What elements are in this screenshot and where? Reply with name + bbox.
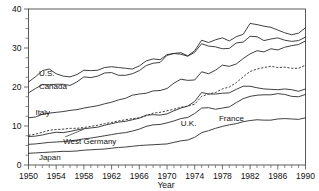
x-tick-label-1982: 1982	[241, 171, 260, 181]
series-line-france	[29, 65, 306, 135]
series-label-canada: Canada	[39, 82, 68, 91]
x-tick-label-1950: 1950	[19, 171, 38, 181]
series-line-italy	[29, 41, 306, 118]
x-tick-label-1962: 1962	[102, 171, 121, 181]
series-line-west-germany	[29, 86, 306, 136]
series-line-u-s	[29, 36, 306, 82]
y-tick-label-30: 30	[12, 43, 22, 53]
chart-canvas: 1950195419581962196619701974197819821986…	[0, 0, 319, 191]
series-label-u-k: U.K.	[181, 119, 197, 128]
series-label-u-s: U.S.	[39, 69, 55, 78]
y-tick-label-10: 10	[12, 121, 22, 131]
data-series-lines	[29, 23, 306, 153]
x-tick-label-1978: 1978	[213, 171, 232, 181]
series-label-italy: Italy	[35, 108, 50, 117]
x-tick-label-1974: 1974	[185, 171, 204, 181]
series-inline-labels: U.S.CanadaFranceItalyWest GermanyU.K.Jap…	[35, 69, 244, 161]
series-label-west-germany: West Germany	[63, 137, 116, 146]
y-tick-label-20: 20	[12, 82, 22, 92]
x-axis-title: Year	[157, 180, 174, 190]
y-tick-label-0: 0	[17, 160, 22, 170]
line-chart: 1950195419581962196619701974197819821986…	[0, 0, 319, 191]
y-axis-ticks	[24, 9, 29, 165]
x-tick-label-1954: 1954	[47, 171, 66, 181]
x-tick-label-1966: 1966	[130, 171, 149, 181]
x-tick-label-1958: 1958	[74, 171, 93, 181]
y-axis-tick-labels: 010203040	[12, 4, 22, 170]
x-tick-label-1990: 1990	[296, 171, 315, 181]
series-line-canada	[29, 23, 306, 92]
series-label-japan: Japan	[39, 153, 61, 162]
series-label-france: France	[219, 114, 244, 123]
x-tick-label-1986: 1986	[268, 171, 287, 181]
x-axis-ticks	[29, 165, 306, 170]
y-tick-label-40: 40	[12, 4, 22, 14]
